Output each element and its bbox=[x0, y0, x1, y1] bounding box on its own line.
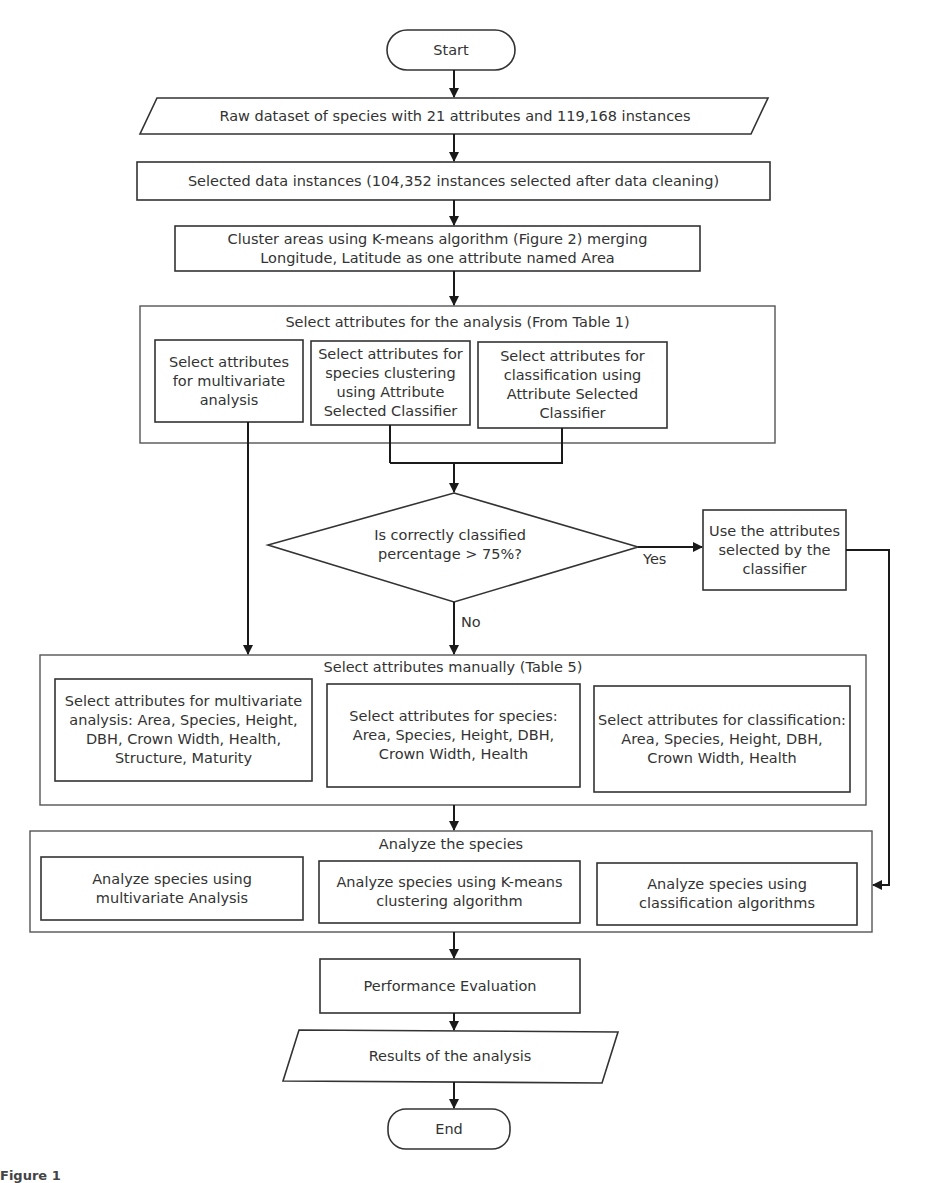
analyze-box-3-label: Analyze species using classification alg… bbox=[597, 863, 857, 925]
raw-dataset-label: Raw dataset of species with 21 attribute… bbox=[150, 98, 760, 134]
analyze-box-1-label: Analyze species using multivariate Analy… bbox=[41, 857, 303, 920]
analyze-group-title: Analyze the species bbox=[30, 836, 872, 852]
decision-no-label: No bbox=[461, 614, 501, 630]
select-box-1-label: Select attributes for multivariate analy… bbox=[155, 340, 303, 422]
performance-label: Performance Evaluation bbox=[320, 959, 580, 1013]
figure-caption: Figure 1 bbox=[0, 1168, 61, 1183]
select-attributes-group-title: Select attributes for the analysis (From… bbox=[140, 314, 775, 330]
manual-group-title: Select attributes manually (Table 5) bbox=[40, 659, 866, 675]
analyze-box-2-label: Analyze species using K-means clustering… bbox=[319, 861, 580, 923]
cluster-areas-label: Cluster areas using K-means algorithm (F… bbox=[175, 226, 700, 271]
use-attributes-label: Use the attributes selected by the class… bbox=[703, 510, 846, 590]
manual-box-1-label: Select attributes for multivariate analy… bbox=[55, 679, 312, 781]
selected-instances-label: Selected data instances (104,352 instanc… bbox=[137, 162, 770, 200]
select-box-3-label: Select attributes for classification usi… bbox=[478, 342, 667, 428]
decision-label: Is correctly classified percentage > 75%… bbox=[350, 520, 550, 570]
manual-box-2-label: Select attributes for species: Area, Spe… bbox=[327, 684, 580, 787]
manual-box-3-label: Select attributes for classification: Ar… bbox=[594, 686, 850, 792]
decision-yes-label: Yes bbox=[643, 551, 683, 567]
start-label: Start bbox=[387, 30, 515, 70]
results-label: Results of the analysis bbox=[290, 1030, 610, 1082]
end-label: End bbox=[388, 1109, 510, 1149]
select-box-2-label: Select attributes for species clustering… bbox=[311, 341, 470, 425]
